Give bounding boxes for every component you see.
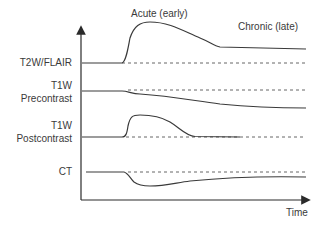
row-label-t1w-pre: T1W Precontrast (21, 80, 72, 104)
row-label-t1w-post: T1W Postcontrast (16, 120, 72, 144)
x-axis-label: Time (286, 207, 308, 218)
row-label-t1w-pre-line1: T1W (21, 80, 72, 91)
row-ct-curves (86, 172, 306, 186)
row-label-t2w-flair-line1: T2W/FLAIR (20, 57, 72, 68)
signal-time-diagram (0, 0, 324, 226)
row-label-t1w-pre-line2: Precontrast (21, 93, 72, 104)
row-label-ct: CT (59, 166, 72, 177)
row-t1w-pre-curves (82, 90, 306, 108)
row-label-t1w-post-line2: Postcontrast (16, 133, 72, 144)
row-label-t2w-flair: T2W/FLAIR (20, 57, 72, 68)
phase-label-acute: Acute (early) (131, 8, 188, 19)
phase-label-chronic: Chronic (late) (238, 21, 298, 32)
row-label-ct-line1: CT (59, 166, 72, 177)
row-t1w-post-curves (82, 115, 306, 137)
row-label-t1w-post-line1: T1W (16, 120, 72, 131)
